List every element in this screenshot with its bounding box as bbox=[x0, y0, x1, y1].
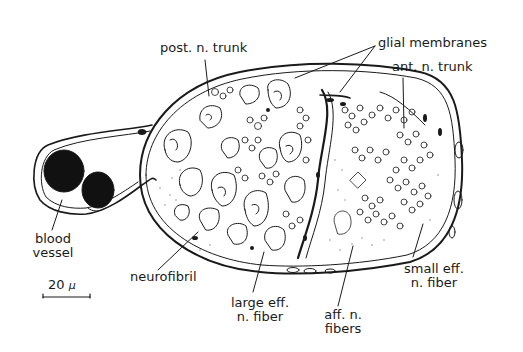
label-small-eff-line1: small eff. bbox=[398, 262, 470, 276]
label-aff-fibers: aff. n. fibers bbox=[318, 308, 368, 336]
label-blood-vessel: blood vessel bbox=[30, 232, 76, 260]
leader-aff-fibers bbox=[338, 246, 353, 306]
scale-bar bbox=[43, 294, 90, 298]
label-large-eff-line1: large eff. bbox=[225, 296, 295, 310]
scale-bar-label: 20 μ bbox=[48, 278, 76, 293]
scale-bar-unit: μ bbox=[69, 279, 76, 292]
label-blood-vessel-line2: vessel bbox=[30, 246, 76, 260]
label-ant-n-trunk: ant. n. trunk bbox=[392, 60, 473, 74]
large-nerve-fibers bbox=[164, 80, 305, 251]
blood-vessel-1 bbox=[44, 150, 84, 192]
label-small-eff-line2: n. fiber bbox=[398, 276, 470, 290]
label-aff-line2: fibers bbox=[318, 322, 368, 336]
nerve-cross-section-figure: post. n. trunk glial membranes ant. n. t… bbox=[0, 0, 523, 352]
leader-neurofibril bbox=[158, 232, 198, 270]
label-large-eff-fiber: large eff. n. fiber bbox=[225, 296, 295, 324]
label-small-eff-fiber: small eff. n. fiber bbox=[398, 262, 470, 290]
label-aff-line1: aff. n. bbox=[318, 308, 368, 322]
blood-vessel-2 bbox=[82, 172, 114, 208]
leader-ant-n-trunk bbox=[403, 78, 404, 128]
label-post-n-trunk: post. n. trunk bbox=[160, 41, 247, 55]
label-neurofibril: neurofibril bbox=[130, 270, 197, 284]
scale-bar-value: 20 bbox=[48, 277, 65, 292]
label-blood-vessel-line1: blood bbox=[30, 232, 76, 246]
label-glial-membranes: glial membranes bbox=[378, 36, 487, 50]
label-large-eff-line2: n. fiber bbox=[225, 310, 295, 324]
small-nerve-fibers bbox=[212, 87, 434, 234]
leader-small-eff-fiber bbox=[413, 224, 423, 257]
